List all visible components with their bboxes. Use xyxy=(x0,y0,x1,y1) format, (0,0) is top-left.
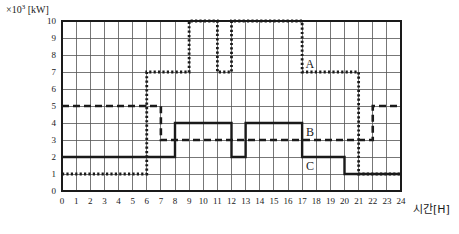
x-tick-8: 8 xyxy=(173,196,178,206)
x-tick-5: 5 xyxy=(130,196,135,206)
y-tick-0: 0 xyxy=(52,186,57,196)
x-tick-21: 21 xyxy=(354,196,363,206)
x-tick-15: 15 xyxy=(269,196,279,206)
x-tick-17: 17 xyxy=(298,196,308,206)
plot-area: 012345678910 012345678910111213141516171… xyxy=(0,0,459,234)
x-axis-tick-labels: 0123456789101112131415161718192021222324 xyxy=(60,196,406,206)
y-tick-4: 4 xyxy=(52,118,57,128)
x-tick-24: 24 xyxy=(397,196,407,206)
x-tick-1: 1 xyxy=(74,196,79,206)
x-tick-6: 6 xyxy=(145,196,150,206)
y-tick-2: 2 xyxy=(52,152,57,162)
x-tick-19: 19 xyxy=(326,196,336,206)
y-tick-3: 3 xyxy=(52,135,57,145)
series-label-b: B xyxy=(306,125,314,139)
x-tick-12: 12 xyxy=(227,196,236,206)
x-tick-18: 18 xyxy=(312,196,322,206)
y-axis-tick-labels: 012345678910 xyxy=(47,16,57,196)
y-tick-5: 5 xyxy=(52,101,57,111)
y-tick-7: 7 xyxy=(52,67,57,77)
y-tick-6: 6 xyxy=(52,84,57,94)
x-tick-20: 20 xyxy=(340,196,350,206)
x-tick-13: 13 xyxy=(241,196,251,206)
y-tick-1: 1 xyxy=(52,169,57,179)
y-tick-8: 8 xyxy=(52,50,57,60)
x-tick-23: 23 xyxy=(382,196,392,206)
series-label-c: C xyxy=(306,159,314,173)
x-tick-0: 0 xyxy=(60,196,65,206)
x-tick-4: 4 xyxy=(116,196,121,206)
x-tick-2: 2 xyxy=(88,196,93,206)
x-tick-3: 3 xyxy=(102,196,107,206)
x-tick-9: 9 xyxy=(187,196,192,206)
series-annotations: ABC xyxy=(306,57,315,173)
x-tick-16: 16 xyxy=(284,196,294,206)
x-tick-22: 22 xyxy=(368,196,377,206)
y-tick-10: 10 xyxy=(47,16,57,26)
x-tick-11: 11 xyxy=(213,196,222,206)
y-tick-9: 9 xyxy=(52,33,57,43)
x-tick-10: 10 xyxy=(199,196,209,206)
load-curve-chart: ×103 [kW] 시간[H] 012345678910 01234567891… xyxy=(0,0,459,234)
series-label-a: A xyxy=(306,57,315,71)
x-tick-7: 7 xyxy=(159,196,164,206)
x-tick-14: 14 xyxy=(255,196,265,206)
